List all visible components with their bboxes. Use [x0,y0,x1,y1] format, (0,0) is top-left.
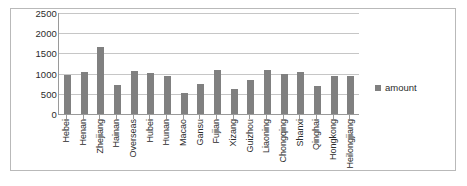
x-label-slot: Xizang [225,119,242,169]
bar-slot [176,13,193,114]
bar-slot [142,13,159,114]
bar-slot [92,13,109,114]
bar[interactable] [97,47,104,114]
bar[interactable] [264,70,271,114]
x-label-slot: Macao [175,119,192,169]
x-axis-label-shanxi: Shanxi [295,119,304,147]
bar[interactable] [147,73,154,114]
bar[interactable] [81,72,88,114]
bar-slot [159,13,176,114]
x-axis-label-qinghai: Qinghai [312,119,321,150]
x-label-slot: Hongkong [325,119,342,169]
x-axis-label-hainan: Hainan [112,119,121,148]
x-label-slot: Chongqing [275,119,292,169]
x-axis-label-chongqing: Chongqing [279,119,288,163]
bar[interactable] [247,80,254,114]
bar-series [59,13,359,114]
bar-slot [342,13,359,114]
bar-slot [209,13,226,114]
x-axis-label-hongkong: Hongkong [329,119,338,160]
x-label-slot: Liaoning [258,119,275,169]
x-label-slot: Guizhou [241,119,258,169]
x-axis-label-hubei: Hubei [145,119,154,143]
bar[interactable] [297,72,304,114]
y-axis-tick-label: 1000 [13,69,57,78]
bar-slot [292,13,309,114]
y-axis-tick-label: 500 [13,89,57,98]
bar[interactable] [347,76,354,114]
bar[interactable] [231,89,238,114]
x-label-slot: Hainan [108,119,125,169]
y-axis-tick-label: 1500 [13,49,57,58]
x-label-slot: Fujian [208,119,225,169]
x-axis-label-henan: Henan [79,119,88,146]
x-axis-label-xizang: Xizang [229,119,238,147]
x-label-slot: Qinghai [308,119,325,169]
legend-label: amount [385,83,417,93]
bar[interactable] [214,70,221,114]
bar-slot [59,13,76,114]
y-axis-tick-label: 2000 [13,29,57,38]
bar[interactable] [64,75,71,114]
x-axis-category-labels: HebeiHenanZhejiangHainanOverseasHubeiHun… [58,119,358,169]
bar-slot [76,13,93,114]
bar[interactable] [131,71,138,114]
bar-slot [226,13,243,114]
x-label-slot: Hubei [141,119,158,169]
bar[interactable] [197,84,204,114]
x-axis-label-gansu: Gansu [195,119,204,146]
plot-area [58,13,359,115]
bar-slot [242,13,259,114]
x-axis-label-heilongjiang: Heilongjiang [345,119,354,169]
x-label-slot: Henan [75,119,92,169]
bar[interactable] [314,86,321,114]
chart-legend: amount [375,83,417,93]
bar-slot [192,13,209,114]
legend-swatch-icon [375,85,381,91]
bar[interactable] [181,93,188,114]
bar[interactable] [281,74,288,114]
x-axis-label-hebei: Hebei [62,119,71,143]
x-axis-label-fujian: Fujian [212,119,221,144]
chart-container: 25002000150010005000 HebeiHenanZhejiangH… [10,8,456,171]
y-axis-tick-labels: 25002000150010005000 [11,13,57,118]
y-axis-tick-label: 0 [13,110,57,119]
x-label-slot: Zhejiang [91,119,108,169]
x-axis-label-zhejiang: Zhejiang [95,119,104,154]
x-axis-label-liaoning: Liaoning [262,119,271,153]
x-label-slot: Hebei [58,119,75,169]
x-label-slot: Hunan [158,119,175,169]
bar[interactable] [331,76,338,114]
chart-plot-wrapper: 25002000150010005000 HebeiHenanZhejiangH… [11,9,455,170]
y-axis-tick-label: 2500 [13,9,57,18]
x-label-slot: Gansu [191,119,208,169]
bar-slot [126,13,143,114]
bar[interactable] [114,85,121,114]
x-label-slot: Overseas [125,119,142,169]
bar-slot [259,13,276,114]
bar-slot [326,13,343,114]
x-axis-label-macao: Macao [179,119,188,146]
bar[interactable] [164,76,171,114]
x-label-slot: Shanxi [291,119,308,169]
x-label-slot: Heilongjiang [341,119,358,169]
bar-slot [309,13,326,114]
bar-slot [276,13,293,114]
x-axis-label-hunan: Hunan [162,119,171,146]
x-axis-label-overseas: Overseas [129,119,138,158]
bar-slot [109,13,126,114]
x-axis-label-guizhou: Guizhou [245,119,254,153]
